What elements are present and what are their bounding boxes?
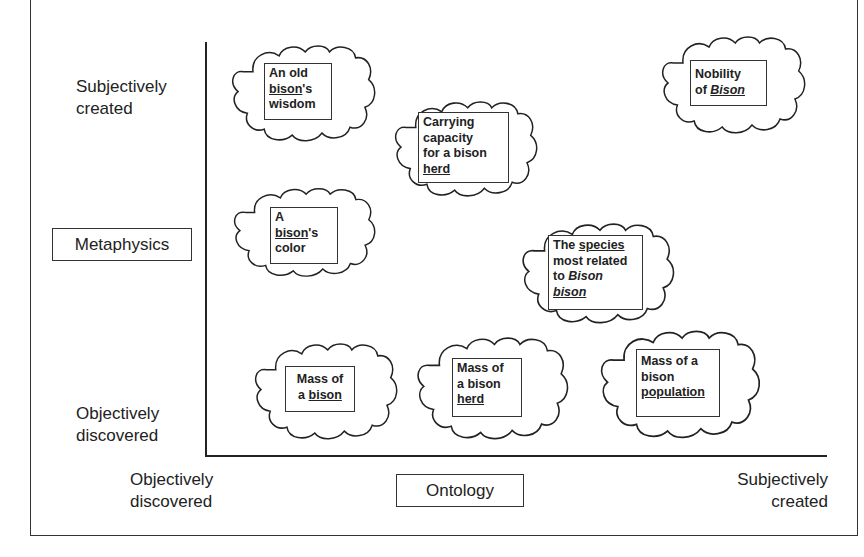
x-axis-right-label: Subjectively created [720,469,828,513]
cloud-carrying-capacity: Carrying capacity for a bison herd [388,98,540,200]
cloud-mass-of-herd: Mass of a bison herd [410,334,571,443]
cloud-old-bison-wisdom: An old bison's wisdom [225,42,378,145]
cloud-mass-of-population: Mass of a bison population [593,327,763,442]
y-axis-title-metaphysics: Metaphysics [52,228,192,261]
cloud-bison-color: A bison's color [227,185,378,280]
cloud-species-related: The species most related to Bison bison [515,220,677,327]
x-axis-left-label: Objectively discovered [130,469,213,513]
x-axis-title-ontology: Ontology [396,474,524,507]
x-axis-line [205,455,827,457]
cloud-nobility-of-bison: Nobility of Bison [655,33,808,137]
y-axis-top-label: Subjectively created [76,76,167,120]
y-axis-bottom-label: Objectively discovered [76,403,159,447]
y-axis-line [205,42,207,456]
cloud-mass-of-bison: Mass of a bison [248,340,400,443]
